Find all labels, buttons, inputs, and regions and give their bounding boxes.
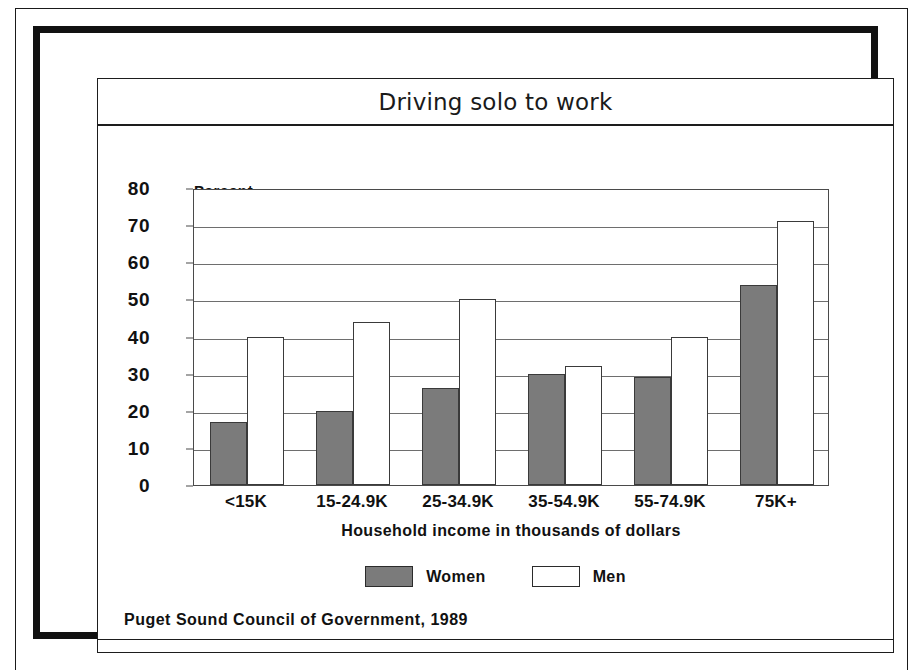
y-tick-mark	[186, 263, 193, 264]
legend-label: Men	[593, 568, 626, 586]
bars-layer	[194, 190, 828, 485]
bar-men-2	[459, 299, 496, 485]
page-title: Driving solo to work	[379, 89, 613, 115]
bar-women-3	[528, 374, 565, 485]
chart-legend: WomenMen	[98, 566, 893, 587]
x-axis-label: Household income in thousands of dollars	[193, 522, 829, 540]
y-tick-label: 30	[90, 364, 150, 386]
y-tick-mark	[186, 226, 193, 227]
bar-women-2	[422, 388, 459, 485]
y-tick-mark	[186, 486, 193, 487]
y-tick-label: 20	[90, 401, 150, 423]
y-tick-label: 50	[90, 289, 150, 311]
x-tick-label: <15K	[225, 492, 267, 512]
x-tick-label: 25-34.9K	[422, 492, 494, 512]
source-note: Puget Sound Council of Government, 1989	[124, 611, 468, 629]
y-tick-mark	[186, 189, 193, 190]
y-tick-label: 60	[90, 252, 150, 274]
chart-title-bar: Driving solo to work	[98, 79, 893, 126]
x-tick-label: 35-54.9K	[528, 492, 600, 512]
plot-area	[193, 189, 829, 486]
footer-divider	[98, 639, 893, 640]
bar-women-0	[210, 422, 247, 485]
x-tick-label: 55-74.9K	[634, 492, 706, 512]
y-tick-label: 10	[90, 438, 150, 460]
bar-men-3	[565, 366, 602, 485]
x-tick-label: 75K+	[755, 492, 797, 512]
bar-women-5	[740, 285, 777, 485]
bar-men-4	[671, 337, 708, 486]
y-tick-mark	[186, 411, 193, 412]
legend-item-women: Women	[365, 566, 485, 587]
y-tick-label: 80	[90, 178, 150, 200]
y-tick-label: 40	[90, 327, 150, 349]
legend-item-men: Men	[532, 566, 626, 587]
x-axis-tick-labels: <15K15-24.9K25-34.9K35-54.9K55-74.9K75K+	[193, 492, 829, 516]
y-tick-mark	[186, 337, 193, 338]
page-thick-frame: Driving solo to work Percent 01020304050…	[33, 26, 878, 639]
bar-men-1	[353, 322, 390, 485]
bar-men-5	[777, 221, 814, 485]
legend-label: Women	[426, 568, 485, 586]
bar-women-4	[634, 377, 671, 485]
y-tick-label: 70	[90, 215, 150, 237]
y-tick-mark	[186, 448, 193, 449]
x-tick-label: 15-24.9K	[316, 492, 388, 512]
bar-women-1	[316, 411, 353, 485]
y-tick-label: 0	[90, 475, 150, 497]
y-tick-mark	[186, 300, 193, 301]
plot-region: Percent 01020304050607080 <15K15-24.9K25…	[98, 126, 893, 652]
chart-card: Driving solo to work Percent 01020304050…	[97, 78, 894, 653]
legend-swatch-women	[365, 566, 413, 587]
bar-men-0	[247, 337, 284, 486]
y-tick-mark	[186, 374, 193, 375]
legend-swatch-men	[532, 566, 580, 587]
